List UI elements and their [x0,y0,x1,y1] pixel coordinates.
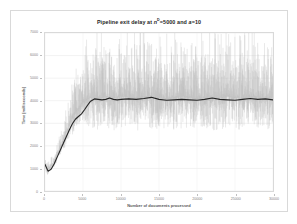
x-tick-label: 5000 [78,197,86,201]
y-tick-label: 0 [36,190,38,194]
x-tick-mark [274,194,275,196]
y-tick-mark [40,78,42,79]
chart-title-mid: =5000 and [160,19,189,25]
x-tick-label: 25000 [231,197,241,201]
y-tick-label: 4000 [30,99,38,103]
x-tick-mark [236,194,237,196]
x-tick-label: 30000 [269,197,279,201]
y-axis-title: Time [milliseconds] [21,56,26,156]
chart-frame: Pipeline exit delay at nD=5000 and a=10 … [10,10,288,212]
x-tick-mark [44,194,45,196]
y-tick-mark [40,123,42,124]
x-tick-mark [121,194,122,196]
y-tick-label: 7000 [30,30,38,34]
x-tick-mark [159,194,160,196]
y-tick-label: 2000 [30,144,38,148]
y-tick-mark [40,32,42,33]
y-axis: 01000200030004000500060007000 [11,32,42,192]
chart-title-prefix: Pipeline exit delay at [97,19,154,25]
y-tick-mark [40,101,42,102]
x-tick-label: 20000 [192,197,202,201]
y-tick-label: 6000 [30,53,38,57]
y-tick-label: 1000 [30,167,38,171]
x-tick-label: 10000 [116,197,126,201]
chart-title: Pipeline exit delay at nD=5000 and a=10 [11,18,287,25]
x-tick-mark [197,194,198,196]
series-canvas [45,33,273,191]
x-axis-title: Number of documents processed [44,203,274,208]
plot-area [44,32,274,192]
y-tick-mark [40,55,42,56]
x-tick-mark [82,194,83,196]
y-tick-mark [40,192,42,193]
y-tick-mark [40,169,42,170]
x-tick-label: 15000 [154,197,164,201]
y-tick-mark [40,146,42,147]
y-tick-label: 5000 [30,76,38,80]
chart-title-suffix: =10 [192,19,201,25]
y-tick-label: 3000 [30,121,38,125]
x-tick-label: 0 [43,197,45,201]
